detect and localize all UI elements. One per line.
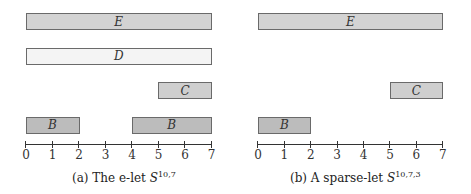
x-axis-tick-label: 5 [383,148,397,162]
x-axis-tick-label: 0 [251,148,265,162]
x-axis-tick [310,141,311,148]
x-axis-tick [389,141,390,148]
interval-b: B [258,117,312,134]
x-axis-tick-label: 4 [357,148,371,162]
x-axis-tick [257,141,258,148]
x-axis-tick [337,141,338,148]
x-axis-tick-label: 6 [409,148,423,162]
interval-e: E [258,13,444,30]
x-axis-tick-label: 1 [277,148,291,162]
panel-caption: (b) A sparse-let S10,7,3 [290,170,421,185]
x-axis-tick-label: 3 [330,148,344,162]
x-axis-tick [416,141,417,148]
interval-label: C [412,84,421,98]
interval-label: E [346,15,355,29]
caption-text: (b) A sparse-let [290,171,387,185]
panel-b-sparse-let: ECB01234567(b) A sparse-let S10,7,3 [0,0,471,194]
interval-c: C [390,82,444,99]
x-axis-tick [284,141,285,148]
x-axis-tick-label: 7 [436,148,450,162]
x-axis-tick-label: 2 [304,148,318,162]
caption-superscript: 10,7,3 [395,170,420,179]
x-axis-tick [363,141,364,148]
x-axis-tick [442,141,443,148]
caption-symbol: S [387,171,395,185]
interval-label: B [280,118,289,132]
